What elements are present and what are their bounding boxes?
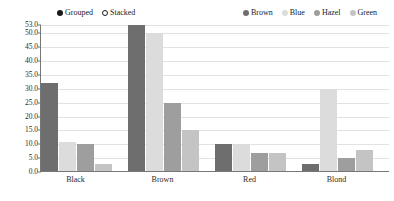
bars-layer xyxy=(41,25,389,172)
legend-label-green: Green xyxy=(358,9,378,17)
y-axis-tick-label: 5.0 xyxy=(29,154,38,162)
bar-group-blond xyxy=(302,25,373,172)
bar-red-green[interactable] xyxy=(269,153,286,172)
bar-blond-blue[interactable] xyxy=(320,89,337,172)
bar-brown-brown[interactable] xyxy=(128,25,145,172)
bar-black-blue[interactable] xyxy=(59,142,76,173)
color-swatch-icon xyxy=(314,10,320,16)
color-swatch-icon xyxy=(350,10,356,16)
x-axis-tick-label: Brown xyxy=(152,176,174,184)
legend-label-blue: Blue xyxy=(290,9,305,17)
legend-item-green[interactable]: Green xyxy=(350,9,378,17)
y-axis-tick-label: 25.0 xyxy=(25,99,38,107)
y-axis-tick-mark xyxy=(38,102,41,103)
y-axis-tick-label: 35.0 xyxy=(25,71,38,79)
legend-label-brown: Brown xyxy=(251,9,273,17)
plot-area: 0.05.010.015.020.025.030.035.040.045.050… xyxy=(40,25,389,172)
y-axis-tick-mark xyxy=(38,88,41,89)
x-axis-tick-label: Black xyxy=(66,176,85,184)
legend-label-hazel: Hazel xyxy=(322,9,341,17)
x-axis-tick-label: Red xyxy=(243,176,256,184)
y-axis-tick-mark xyxy=(38,130,41,131)
y-axis-tick-mark xyxy=(38,47,41,48)
x-axis-tick-label: Blond xyxy=(327,176,347,184)
y-axis-tick-label: 30.0 xyxy=(25,85,38,93)
y-axis-tick-mark xyxy=(38,158,41,159)
color-swatch-icon xyxy=(243,10,249,16)
legend-label-grouped: Grouped xyxy=(65,9,93,17)
bar-group-black xyxy=(41,25,112,172)
bar-red-brown[interactable] xyxy=(215,144,232,172)
y-axis-tick-mark xyxy=(38,74,41,75)
bar-chart: Grouped Stacked BrownBlueHazelGreen 0.05… xyxy=(0,0,394,201)
bar-blond-hazel[interactable] xyxy=(338,158,355,172)
legend-color: BrownBlueHazelGreen xyxy=(243,9,377,17)
hollow-circle-icon xyxy=(102,10,108,16)
y-axis-tick-mark xyxy=(38,33,41,34)
legend-label-stacked: Stacked xyxy=(110,9,135,17)
y-axis-tick-label: 45.0 xyxy=(25,43,38,51)
legend-style: Grouped Stacked xyxy=(57,9,135,17)
y-axis-tick-label: 50.0 xyxy=(25,30,38,38)
bar-red-blue[interactable] xyxy=(233,144,250,172)
y-axis-tick-label: 15.0 xyxy=(25,127,38,135)
x-axis-line xyxy=(41,171,389,172)
legend-item-brown[interactable]: Brown xyxy=(243,9,273,17)
bar-black-brown[interactable] xyxy=(41,83,58,172)
bar-group-red xyxy=(215,25,286,172)
color-swatch-icon xyxy=(282,10,288,16)
y-axis-tick-label: 0.0 xyxy=(29,168,38,176)
bar-red-hazel[interactable] xyxy=(251,153,268,172)
bar-brown-hazel[interactable] xyxy=(164,103,181,172)
y-axis-tick-mark xyxy=(38,61,41,62)
y-axis-tick-label: 20.0 xyxy=(25,113,38,121)
y-axis-tick-label: 10.0 xyxy=(25,141,38,149)
legend-item-grouped[interactable]: Grouped xyxy=(57,9,93,17)
y-axis-tick-label: 40.0 xyxy=(25,57,38,65)
y-axis-tick-mark xyxy=(38,172,41,173)
legend-item-stacked[interactable]: Stacked xyxy=(102,9,135,17)
bar-blond-green[interactable] xyxy=(356,150,373,172)
filled-circle-icon xyxy=(57,10,63,16)
y-axis-tick-mark xyxy=(38,25,41,26)
y-axis-tick-label: 53.0 xyxy=(25,21,38,29)
y-axis-tick-mark xyxy=(38,144,41,145)
legend-item-blue[interactable]: Blue xyxy=(282,9,305,17)
legend-item-hazel[interactable]: Hazel xyxy=(314,9,341,17)
y-axis-tick-mark xyxy=(38,116,41,117)
bar-brown-green[interactable] xyxy=(182,130,199,172)
bar-black-hazel[interactable] xyxy=(77,144,94,172)
bar-brown-blue[interactable] xyxy=(146,33,163,172)
bar-group-brown xyxy=(128,25,199,172)
